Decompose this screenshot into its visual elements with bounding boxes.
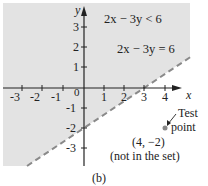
test-point-note: (not in the set) [110,149,180,164]
y-tick-label: 1 [73,60,79,75]
x-tick-label: 1 [101,90,107,105]
test-point-label: Test [178,106,198,121]
y-tick-label: 3 [73,20,79,35]
test-point-coords: (4, −2) [132,135,165,150]
x-tick-label: 3 [141,90,147,105]
x-tick-label: -3 [10,90,20,105]
inequality-label: 2x − 3y < 6 [104,12,162,27]
x-tick-label: 4 [162,90,168,105]
y-tick-label: -1 [66,101,76,116]
y-tick-label: 2 [73,40,79,55]
x-axis-label: x [186,88,191,103]
test-point-label: point [171,120,196,135]
y-tick-label: -3 [66,141,76,156]
figure-caption: (b) [92,171,106,186]
x-tick-label: 0 [74,86,80,98]
x-tick-label: -2 [30,90,40,105]
boundary-label: 2x − 3y = 6 [117,42,175,57]
x-tick-label: -1 [51,90,61,105]
y-tick-label: -2 [66,121,76,136]
y-axis-label: y [75,3,80,18]
x-tick-label: 2 [121,90,127,105]
